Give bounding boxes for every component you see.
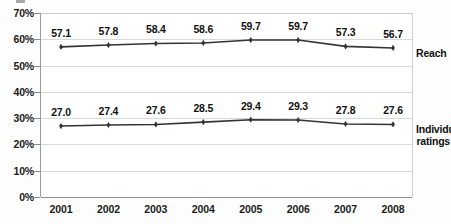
gridline-10	[41, 171, 412, 172]
y-axis-tick	[34, 13, 40, 14]
x-axis-label-2003: 2003	[144, 203, 167, 215]
gridline-30	[41, 118, 412, 119]
data-label-reach-2002: 57.8	[99, 25, 119, 37]
y-axis-tick	[34, 171, 40, 172]
y-axis-label-30: 30%	[0, 112, 34, 124]
x-axis-label-2007: 2007	[334, 203, 357, 215]
x-axis-label-2008: 2008	[382, 203, 405, 215]
data-label-individual-ratings-2003: 27.6	[146, 104, 166, 116]
x-axis-label-2006: 2006	[287, 203, 310, 215]
gridline-70	[41, 13, 412, 14]
series-label-individual-line2: ratings	[416, 136, 450, 148]
x-axis-label-2004: 2004	[192, 203, 215, 215]
data-label-individual-ratings-2005: 29.4	[241, 100, 261, 112]
data-label-individual-ratings-2007: 27.8	[336, 104, 356, 116]
data-label-individual-ratings-2008: 27.6	[383, 104, 403, 116]
y-axis-tick	[34, 144, 40, 145]
data-label-individual-ratings-2002: 27.4	[99, 105, 119, 117]
y-axis-tick	[34, 197, 40, 198]
y-axis-label-60: 60%	[0, 33, 34, 45]
y-axis-tick	[34, 66, 40, 67]
gridline-40	[41, 92, 412, 93]
y-axis-tick	[34, 39, 40, 40]
y-axis-label-0: 0%	[0, 191, 34, 203]
data-label-reach-2003: 58.4	[146, 23, 166, 35]
data-label-individual-ratings-2004: 28.5	[193, 102, 213, 114]
y-axis-label-70: 70%	[0, 7, 34, 19]
data-label-individual-ratings-2001: 27.0	[51, 106, 71, 118]
data-label-reach-2007: 57.3	[336, 26, 356, 38]
y-axis-tick	[34, 118, 40, 119]
x-axis-label-2001: 2001	[50, 203, 73, 215]
data-label-reach-2001: 57.1	[51, 27, 71, 39]
data-label-reach-2005: 59.7	[241, 20, 261, 32]
data-label-reach-2004: 58.6	[193, 23, 213, 35]
data-label-individual-ratings-2006: 29.3	[288, 100, 308, 112]
gridline-20	[41, 144, 412, 145]
gridline-60	[41, 39, 412, 40]
data-label-reach-2008: 56.7	[383, 28, 403, 40]
y-axis-label-40: 40%	[0, 86, 34, 98]
series-label-reach: Reach	[416, 48, 447, 60]
data-label-reach-2006: 59.7	[288, 20, 308, 32]
y-axis-tick	[34, 92, 40, 93]
gridline-0	[41, 197, 412, 198]
plot-area	[40, 13, 413, 197]
cropped-title-artifact	[16, 0, 25, 3]
x-axis-label-2005: 2005	[239, 203, 262, 215]
y-axis-label-10: 10%	[0, 165, 34, 177]
y-axis-label-20: 20%	[0, 138, 34, 150]
line-chart: 57.157.858.458.659.759.757.356.727.027.4…	[0, 0, 451, 224]
y-axis-label-50: 50%	[0, 60, 34, 72]
x-axis-label-2002: 2002	[97, 203, 120, 215]
gridline-50	[41, 66, 412, 67]
series-label-individual-line1: Individual	[416, 124, 450, 136]
series-label-individual: Individual ratings	[416, 124, 450, 147]
